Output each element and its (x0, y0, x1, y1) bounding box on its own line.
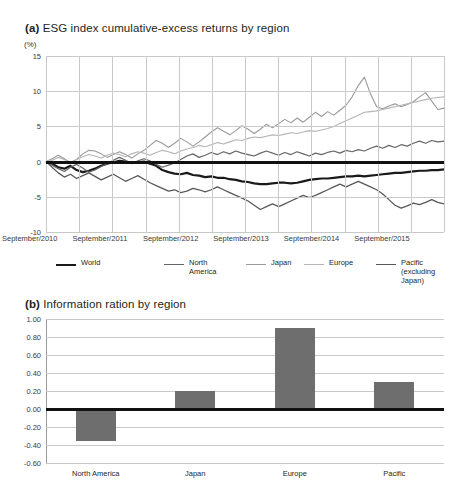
panel-b-bar-japan (175, 391, 215, 409)
panel-a-x-tick-label: September/2012 (143, 234, 198, 243)
panel-b-y-tick-label: -0.40 (24, 441, 41, 450)
panel-b-y-tick-label: 0.00 (26, 405, 41, 414)
panel-b-y-tick-label: 0.80 (26, 333, 41, 342)
panel-a-vertical-gridline (46, 56, 47, 232)
panel-a-vertical-gridline (311, 56, 312, 232)
panel-b-y-tick-label: -0.60 (24, 459, 41, 468)
panel-b-gridline (46, 445, 444, 446)
panel-b-bar-europe (275, 328, 315, 409)
legend-swatch-line-icon (376, 264, 396, 265)
panel-a-vertical-gridline (278, 56, 279, 232)
panel-a-x-tick-label: September/2013 (213, 234, 268, 243)
legend-label: World (81, 258, 100, 267)
panel-b-title-text: Information ration by region (43, 298, 186, 310)
legend-swatch-line-icon (164, 264, 184, 265)
figure-container: (a) ESG index cumulative-excess returns … (0, 0, 455, 489)
legend-label: Europe (329, 258, 353, 267)
panel-a-vertical-gridline (345, 56, 346, 232)
panel-b-y-tick-label: 0.20 (26, 387, 41, 396)
panel-a-vertical-gridline (212, 56, 213, 232)
legend-label: Pacific (excluding Japan) (401, 258, 435, 285)
panel-a-vertical-gridline (411, 56, 412, 232)
panel-a-x-tick-label: September/2011 (72, 234, 127, 243)
panel-b-x-tick-label: North America (72, 469, 120, 478)
panel-b-x-tick-label: Europe (283, 469, 307, 478)
panel-a-y-tick-label: 0 (37, 157, 41, 166)
panel-a-vertical-gridline (378, 56, 379, 232)
legend-swatch-line-icon (304, 264, 324, 265)
panel-b-y-tick-label: -0.20 (24, 423, 41, 432)
panel-a-vertical-gridline (112, 56, 113, 232)
panel-a-vertical-gridline (146, 56, 147, 232)
panel-a-y-tick-label: 15 (33, 52, 41, 61)
panel-a-vertical-gridline (444, 56, 445, 232)
panel-a-title-text: ESG index cumulative-excess returns by r… (43, 22, 290, 34)
panel-a-title: (a) ESG index cumulative-excess returns … (25, 22, 289, 34)
panel-b-y-tick-label: 0.40 (26, 369, 41, 378)
panel-b-gridline (46, 337, 444, 338)
legend-label: North America (189, 258, 217, 276)
panel-a-vertical-gridline (179, 56, 180, 232)
panel-a-y-tick-label: 10 (33, 87, 41, 96)
legend-swatch-line-icon (246, 264, 266, 265)
panel-a-y-tick-label: -5 (34, 192, 41, 201)
panel-b-plot-area: 1.000.800.600.400.200.00-0.20-0.40-0.60N… (46, 319, 444, 463)
panel-b-gridline (46, 463, 444, 464)
panel-b-information-ratio: (b) Information ration by region 1.000.8… (0, 290, 455, 489)
panel-a-esg-cumulative-excess-returns: (a) ESG index cumulative-excess returns … (0, 0, 455, 290)
panel-b-tag: (b) (25, 298, 40, 310)
panel-a-plot-area: 151050-5-10September/2010September/2011S… (46, 56, 444, 232)
panel-a-vertical-gridline (79, 56, 80, 232)
panel-a-tag: (a) (25, 22, 39, 34)
panel-a-x-tick-label: September/2010 (2, 234, 57, 243)
panel-b-title: (b) Information ration by region (25, 298, 186, 310)
panel-b-bar-north-america (76, 409, 116, 441)
panel-a-gridline (46, 232, 444, 233)
panel-a-x-tick-label: September/2014 (284, 234, 339, 243)
panel-b-x-tick-label: Japan (185, 469, 205, 478)
panel-b-gridline (46, 373, 444, 374)
panel-b-y-tick-label: 1.00 (26, 315, 41, 324)
legend-label: Japan (271, 258, 291, 267)
panel-a-x-tick-label: September/2015 (354, 234, 409, 243)
panel-b-zero-line (46, 408, 444, 411)
panel-a-vertical-gridline (245, 56, 246, 232)
panel-a-y-tick-label: 5 (37, 122, 41, 131)
panel-b-gridline (46, 355, 444, 356)
panel-b-x-tick-label: Pacific (383, 469, 405, 478)
panel-b-y-tick-label: 0.60 (26, 351, 41, 360)
legend-swatch-line-icon (56, 264, 76, 266)
panel-b-bar-pacific (374, 382, 414, 409)
panel-b-gridline (46, 319, 444, 320)
panel-a-y-unit-label: (%) (24, 40, 36, 49)
panel-a-legend: WorldNorth AmericaJapanEuropePacific (ex… (46, 258, 446, 286)
panel-a-zero-line (46, 161, 444, 164)
